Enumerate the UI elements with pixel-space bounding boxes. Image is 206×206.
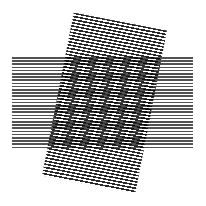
moire-figure: Moire pattern: a horizontal band of fine…	[0, 0, 206, 206]
rotated-line-rectangle	[42, 12, 167, 193]
